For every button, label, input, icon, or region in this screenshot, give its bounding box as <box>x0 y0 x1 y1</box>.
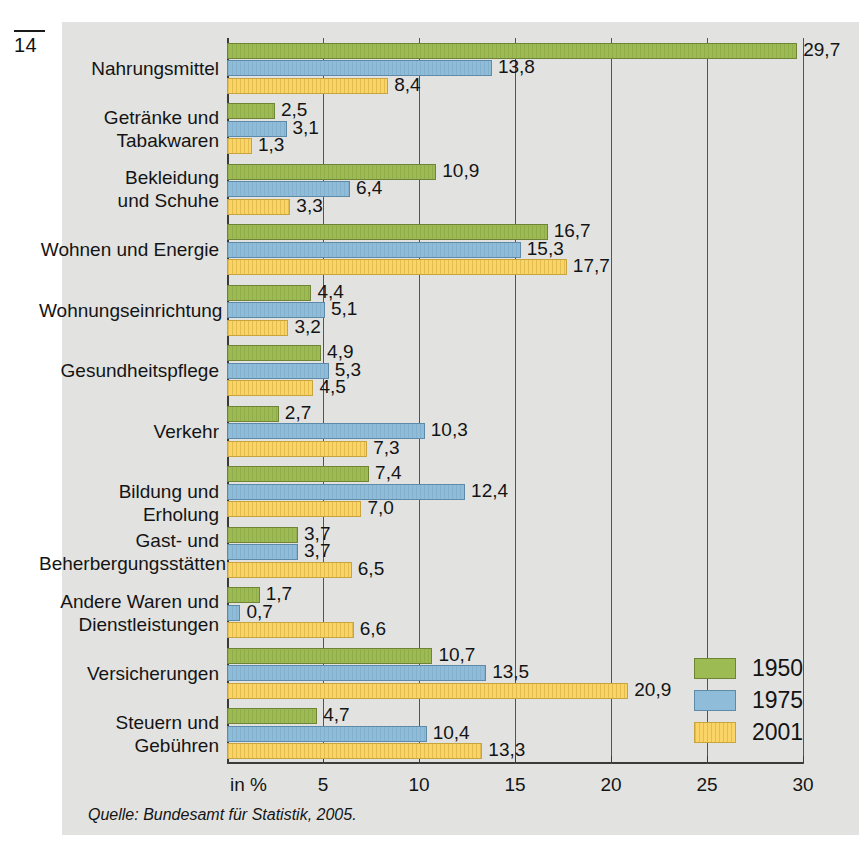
legend-swatch-1950 <box>694 658 736 679</box>
tickmark-30 <box>803 756 804 763</box>
bar-1975 <box>227 181 350 197</box>
bar-2001 <box>227 199 290 215</box>
bar-value-label: 1,7 <box>266 586 292 602</box>
legend-item-1975: 1975 <box>694 684 834 716</box>
tickmark-20 <box>611 756 612 763</box>
bar-1950 <box>227 103 275 119</box>
bar-2001 <box>227 622 354 638</box>
bar-2001 <box>227 683 628 699</box>
category-label: Andere Waren und Dienstleistungen <box>39 590 219 636</box>
x-tick-label-15: 15 <box>504 774 525 796</box>
bar-2001 <box>227 441 367 457</box>
folio-number: 14 <box>14 35 50 55</box>
x-tick-label-30: 30 <box>792 774 813 796</box>
bar-value-label: 16,7 <box>554 223 591 239</box>
bar-value-label: 4,7 <box>323 707 349 723</box>
category-label: Bildung und Erholung <box>39 480 219 526</box>
bar-1950 <box>227 164 436 180</box>
figure-page: 14 NahrungsmittelGetränke und Tabakwaren… <box>0 0 859 857</box>
chart-legend: 195019752001 <box>694 652 834 748</box>
bar-value-label: 0,7 <box>246 604 272 620</box>
bar-2001 <box>227 259 567 275</box>
bar-value-label: 20,9 <box>634 682 671 698</box>
bar-value-label: 2,7 <box>285 405 311 421</box>
bar-value-label: 3,2 <box>294 319 320 335</box>
gridline-20 <box>611 38 612 764</box>
category-label: Verkehr <box>39 420 219 443</box>
bar-1975 <box>227 242 521 258</box>
gridline-15 <box>515 38 516 764</box>
x-tick-label-25: 25 <box>696 774 717 796</box>
bar-1975 <box>227 605 240 621</box>
bar-1975 <box>227 665 486 681</box>
bar-1975 <box>227 363 329 379</box>
bar-value-label: 17,7 <box>573 258 610 274</box>
legend-label: 1975 <box>752 687 803 714</box>
bar-value-label: 6,4 <box>356 180 382 196</box>
bar-value-label: 4,9 <box>327 344 353 360</box>
axis-unit-label: in % <box>230 774 267 796</box>
bar-value-label: 10,4 <box>433 725 470 741</box>
tickmark-25 <box>707 756 708 763</box>
source-note: Quelle: Bundesamt für Statistik, 2005. <box>88 806 357 824</box>
x-tick-label-5: 5 <box>318 774 329 796</box>
bar-1950 <box>227 224 548 240</box>
category-label: Gast- und Beherbergungsstätten <box>39 529 219 575</box>
bar-1975 <box>227 484 465 500</box>
bar-1975 <box>227 60 492 76</box>
bar-1975 <box>227 544 298 560</box>
bar-value-label: 10,9 <box>442 163 479 179</box>
bar-1950 <box>227 648 432 664</box>
category-label: Gesundheitspflege <box>39 359 219 382</box>
bar-value-label: 3,3 <box>296 198 322 214</box>
folio-rule <box>14 30 45 32</box>
category-label: Getränke und Tabakwaren <box>39 106 219 152</box>
legend-label: 1950 <box>752 655 803 682</box>
bar-1950 <box>227 527 298 543</box>
bar-value-label: 7,4 <box>375 465 401 481</box>
bar-value-label: 4,5 <box>319 379 345 395</box>
legend-item-1950: 1950 <box>694 652 834 684</box>
bar-value-label: 10,7 <box>438 647 475 663</box>
bar-2001 <box>227 320 288 336</box>
bar-value-label: 8,4 <box>394 77 420 93</box>
category-label: Bekleidung und Schuhe <box>39 166 219 212</box>
bar-2001 <box>227 743 482 759</box>
bar-1950 <box>227 466 369 482</box>
x-tick-label-20: 20 <box>600 774 621 796</box>
bar-1975 <box>227 726 427 742</box>
category-label: Nahrungsmittel <box>39 57 219 80</box>
legend-item-2001: 2001 <box>694 716 834 748</box>
legend-swatch-1975 <box>694 690 736 711</box>
bar-value-label: 13,3 <box>488 742 525 758</box>
bar-1950 <box>227 345 321 361</box>
page-folio: 14 <box>14 30 50 55</box>
legend-swatch-2001 <box>694 722 736 743</box>
bar-value-label: 6,5 <box>358 561 384 577</box>
bar-2001 <box>227 380 313 396</box>
bar-2001 <box>227 78 388 94</box>
x-tick-label-10: 10 <box>408 774 429 796</box>
bar-value-label: 13,8 <box>498 59 535 75</box>
category-label: Steuern und Gebühren <box>39 711 219 757</box>
bar-value-label: 3,1 <box>293 120 319 136</box>
bar-value-label: 12,4 <box>471 483 508 499</box>
bar-2001 <box>227 562 352 578</box>
bar-value-label: 7,3 <box>373 440 399 456</box>
bar-value-label: 29,7 <box>803 42 840 58</box>
category-label: Versicherungen <box>39 662 219 685</box>
bar-value-label: 3,7 <box>304 543 330 559</box>
bar-value-label: 6,6 <box>360 621 386 637</box>
bar-value-label: 5,1 <box>331 301 357 317</box>
bar-2001 <box>227 138 252 154</box>
bar-2001 <box>227 501 361 517</box>
bar-value-label: 15,3 <box>527 241 564 257</box>
bar-value-label: 7,0 <box>367 500 393 516</box>
legend-label: 2001 <box>752 719 803 746</box>
bar-1950 <box>227 285 311 301</box>
bar-value-label: 2,5 <box>281 102 307 118</box>
bar-value-label: 13,5 <box>492 664 529 680</box>
category-label: Wohnungseinrichtung <box>39 299 219 322</box>
bar-1950 <box>227 406 279 422</box>
category-label: Wohnen und Energie <box>39 238 219 261</box>
